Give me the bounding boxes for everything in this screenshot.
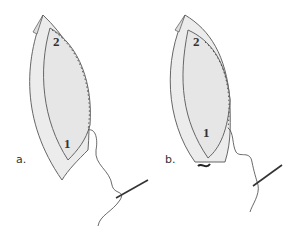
panel-a: 2 1 a. <box>16 15 148 226</box>
panel-label-a: a. <box>16 153 26 166</box>
panel-label-b: b. <box>165 153 175 166</box>
fold-number-1: 1 <box>203 125 210 140</box>
thread-b <box>228 128 258 212</box>
sewing-diagram: 2 1 a. 2 1 b. <box>0 0 303 228</box>
fold-number-1: 1 <box>64 136 71 151</box>
panel-b: 2 1 b. <box>165 15 282 212</box>
needle-b <box>253 165 282 186</box>
fold-number-2: 2 <box>193 34 200 49</box>
knot-b <box>198 164 210 166</box>
fold-number-2: 2 <box>53 34 60 49</box>
needle-a <box>116 180 148 198</box>
thread-a <box>88 130 122 226</box>
